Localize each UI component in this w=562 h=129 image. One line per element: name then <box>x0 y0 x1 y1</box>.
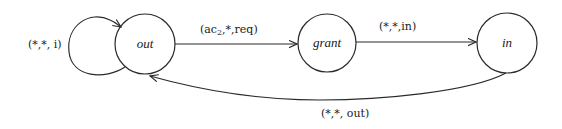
transition-label-in-to-out: (*,*, out) <box>321 108 369 119</box>
transition-label-grant-to-in: (*,*,in) <box>379 21 416 32</box>
label-prefix: (ac <box>200 23 217 36</box>
state-out-label: out <box>125 37 165 50</box>
state-diagram-canvas <box>0 0 562 129</box>
edge-in-to-out <box>150 73 506 100</box>
state-grant-label: grant <box>302 36 352 49</box>
transition-label-out-to-grant: (ac2,*,req) <box>200 24 258 37</box>
transition-label-self-loop: (*,*, i) <box>28 39 62 50</box>
state-in-label: in <box>492 36 522 49</box>
label-suffix: ,*,req) <box>222 23 258 36</box>
edge-out-self-loop <box>69 17 125 75</box>
